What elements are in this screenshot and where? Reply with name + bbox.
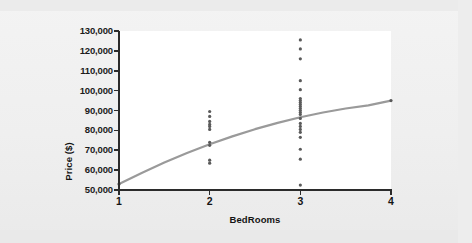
- data-point: [208, 144, 211, 147]
- y-axis-title-wrapper: Price ($): [45, 60, 75, 160]
- data-point: [389, 99, 392, 102]
- data-point: [208, 125, 211, 128]
- data-point: [208, 159, 211, 162]
- data-point: [299, 47, 302, 50]
- y-axis-tick-label: 120,000: [55, 46, 113, 56]
- y-axis-title: Price ($): [63, 117, 74, 207]
- data-point: [299, 183, 302, 186]
- data-point: [299, 148, 302, 151]
- data-point: [299, 117, 302, 120]
- chart-figure: 50,00060,00070,00080,00090,000100,000110…: [0, 0, 472, 243]
- x-axis-title: BedRooms: [119, 214, 391, 225]
- data-point: [299, 158, 302, 161]
- data-point: [299, 136, 302, 139]
- data-point: [299, 113, 302, 116]
- fit-curve-line: [119, 101, 391, 184]
- data-point: [208, 141, 211, 144]
- data-point: [208, 120, 211, 123]
- data-point: [299, 88, 302, 91]
- data-point: [299, 128, 302, 131]
- data-point: [208, 110, 211, 113]
- data-point: [299, 122, 302, 125]
- x-axis-tick-label: 4: [378, 195, 404, 207]
- x-axis-tick-label: 2: [197, 195, 223, 207]
- x-axis-tick-label: 1: [106, 195, 132, 207]
- data-point: [208, 128, 211, 131]
- fit-curve: [119, 101, 391, 184]
- data-point: [299, 125, 302, 128]
- data-point: [299, 79, 302, 82]
- axis-lines: [114, 31, 392, 196]
- data-point: [208, 115, 211, 118]
- data-point: [299, 131, 302, 134]
- data-point: [299, 57, 302, 60]
- y-axis-tick-label: 130,000: [55, 26, 113, 36]
- x-axis-tick-label: 3: [287, 195, 313, 207]
- data-point: [208, 162, 211, 165]
- data-point: [299, 38, 302, 41]
